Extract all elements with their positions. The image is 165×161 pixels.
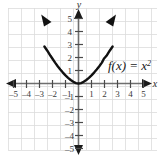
y-tick-label: –3	[64, 118, 75, 128]
parabola-figure: –5 –4 –3 –2 –1 1 2 3 4 5 5 4 3 2 1 –1 –2…	[0, 0, 165, 161]
x-axis-name: x	[152, 78, 158, 89]
x-tick-label: 5	[141, 89, 146, 99]
y-tick-label: –1	[64, 92, 74, 102]
y-tick-label: –4	[64, 131, 75, 141]
x-tick-label: –5	[8, 89, 19, 99]
y-tick-label: 3	[68, 40, 73, 50]
x-tick-label: –4	[21, 89, 32, 99]
x-tick-label: 2	[102, 89, 107, 99]
y-tick-label: 4	[68, 27, 73, 37]
y-axis-name: y	[76, 0, 82, 10]
y-tick-label: 5	[68, 14, 73, 24]
x-tick-label: –3	[34, 89, 45, 99]
x-tick-label: –2	[47, 89, 57, 99]
y-tick-label: –5	[64, 144, 75, 154]
y-tick-label: 1	[68, 66, 73, 76]
y-tick-label: –2	[64, 105, 74, 115]
figure-background	[0, 0, 165, 161]
coordinate-plane: –5 –4 –3 –2 –1 1 2 3 4 5 5 4 3 2 1 –1 –2…	[0, 0, 165, 161]
function-label: f(x) = x2	[108, 58, 151, 73]
x-tick-label: 1	[89, 89, 94, 99]
x-tick-label: 4	[128, 89, 133, 99]
function-label-base: f(x) = x	[108, 58, 147, 73]
y-tick-label: 2	[68, 53, 73, 63]
function-label-exponent: 2	[147, 59, 151, 68]
x-tick-label: 3	[115, 89, 120, 99]
